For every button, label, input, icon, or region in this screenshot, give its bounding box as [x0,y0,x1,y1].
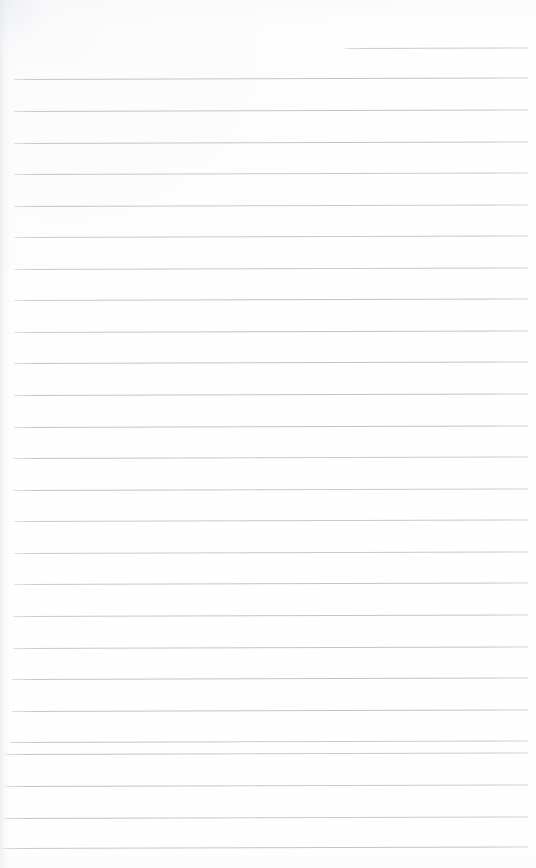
page-writing-area [0,0,536,868]
scanned-page [0,0,536,868]
